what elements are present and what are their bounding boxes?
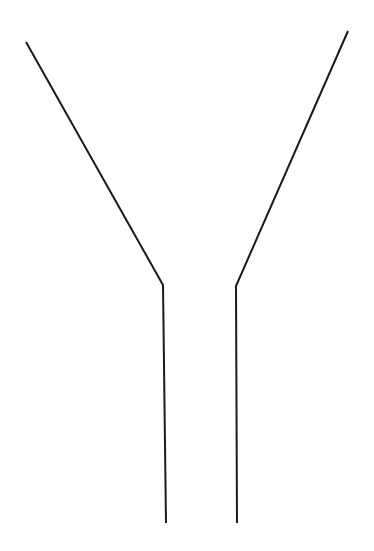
funnel-right-wall	[236, 31, 348, 523]
funnel-diagram	[0, 0, 374, 551]
funnel-left-wall	[26, 42, 166, 523]
